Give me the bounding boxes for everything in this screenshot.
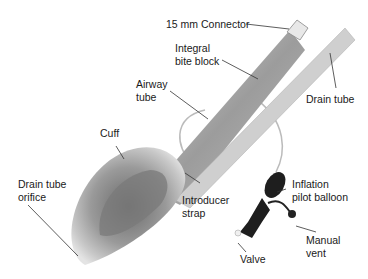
label-line: Integral [175,42,219,55]
pilot-balloon-shape [260,168,290,201]
label-15mm-connector: 15 mm Connector [166,18,249,31]
label-line: Airway [136,78,168,91]
label-introducer-strap: Introducer strap [182,194,229,219]
label-line: Introducer [182,194,229,207]
label-line: Drain tube [18,178,66,191]
label-inflation-pilot-balloon: Inflation pilot balloon [292,178,348,203]
label-line: pilot balloon [292,191,348,204]
label-line: strap [182,207,229,220]
label-line: orifice [18,191,66,204]
label-line: Inflation [292,178,348,191]
label-valve: Valve [240,253,266,266]
label-line: tube [136,91,168,104]
label-integral-bite-block: Integral bite block [175,42,219,67]
lma-diagram: 15 mm Connector Integral bite block Airw… [0,0,368,279]
label-line: bite block [175,55,219,68]
label-manual-vent: Manual vent [306,234,340,259]
label-line: vent [306,247,340,260]
label-drain-tube-orifice: Drain tube orifice [18,178,66,203]
label-drain-tube: Drain tube [306,93,354,106]
label-cuff: Cuff [100,127,119,140]
label-airway-tube: Airway tube [136,78,168,103]
label-line: Manual [306,234,340,247]
